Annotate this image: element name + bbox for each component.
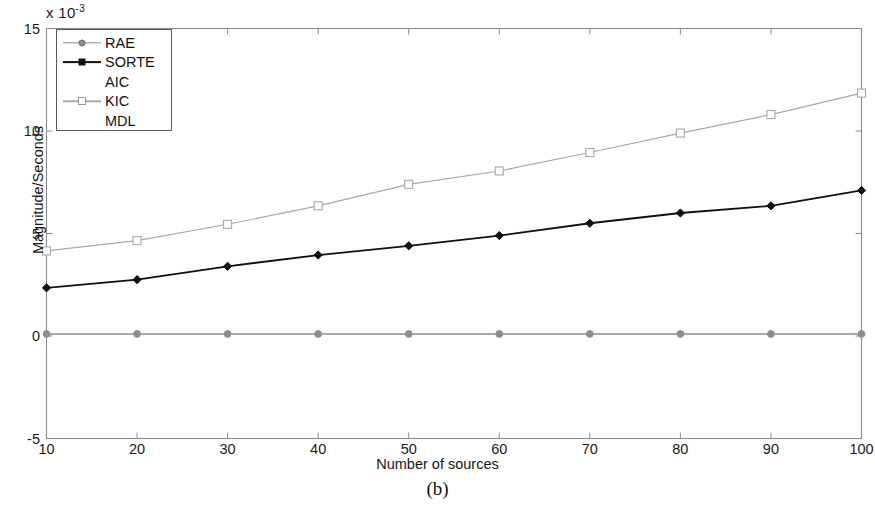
data-point (133, 237, 141, 245)
data-point (314, 202, 322, 210)
data-point (495, 231, 503, 239)
legend-label: KIC (103, 94, 129, 109)
data-point (495, 167, 503, 175)
data-point (857, 186, 865, 194)
x-tick-label: 20 (129, 441, 145, 457)
legend-item-sorte[interactable]: SORTE (57, 53, 171, 73)
data-point (224, 331, 231, 338)
x-tick-label: 60 (491, 441, 507, 457)
legend-marker-square-icon (78, 97, 86, 105)
x-tick-label: 10 (38, 441, 54, 457)
data-point (496, 331, 503, 338)
data-point (134, 331, 141, 338)
legend-swatch-rae (61, 34, 103, 52)
legend-marker-circle-icon (79, 39, 86, 46)
exponent-base: x 10 (46, 4, 76, 21)
legend-label: SORTE (103, 55, 155, 70)
data-point (133, 276, 141, 284)
data-point (858, 331, 865, 338)
legend-swatch-kic (61, 92, 103, 110)
legend-label: MDL (103, 114, 136, 129)
legend-label: AIC (103, 75, 129, 90)
x-tick-label: 40 (310, 441, 326, 457)
data-point (586, 331, 593, 338)
data-point (405, 180, 413, 188)
data-point (43, 331, 50, 338)
legend-swatch-sorte (61, 53, 103, 71)
x-axis-title: Number of sources (0, 456, 875, 472)
y-tick-label: 0 (6, 328, 40, 344)
legend-item-rae[interactable]: RAE (57, 33, 171, 53)
x-tick-label: 100 (849, 441, 873, 457)
data-point (224, 262, 232, 270)
series-sorte (42, 186, 865, 292)
data-point (314, 251, 322, 259)
data-point (768, 331, 775, 338)
data-point (858, 89, 866, 97)
data-point (677, 331, 684, 338)
data-point (767, 111, 775, 119)
x-tick-label: 30 (220, 441, 236, 457)
data-point (586, 219, 594, 227)
data-point (676, 209, 684, 217)
y-tick-label: 15 (6, 21, 40, 37)
exponent-power: -3 (76, 3, 86, 14)
x-tick-label: 90 (763, 441, 779, 457)
legend-item-mdl[interactable]: MDL (57, 111, 171, 131)
legend-swatch-mdl (61, 112, 103, 130)
y-axis-title: Magnitude/Seconds (30, 90, 46, 290)
chart-legend: RAESORTEAICKICMDL (56, 29, 172, 131)
data-point (405, 331, 412, 338)
data-point (224, 220, 232, 228)
legend-swatch-aic (61, 73, 103, 91)
data-point (586, 149, 594, 157)
figure-panel: x 10-3 -5051015 102030405060708090100 Ma… (0, 0, 875, 507)
legend-item-aic[interactable]: AIC (57, 72, 171, 92)
data-point (405, 242, 413, 250)
legend-item-kic[interactable]: KIC (57, 92, 171, 112)
data-point (676, 129, 684, 137)
y-axis-exponent-label: x 10-3 (46, 3, 85, 21)
x-tick-label: 80 (672, 441, 688, 457)
figure-caption: (b) (0, 478, 875, 500)
series-rae (43, 331, 865, 338)
x-tick-label: 70 (582, 441, 598, 457)
legend-marker-diamond-icon (79, 59, 86, 66)
data-point (315, 331, 322, 338)
legend-label: RAE (103, 36, 135, 51)
x-tick-label: 50 (401, 441, 417, 457)
data-point (767, 202, 775, 210)
